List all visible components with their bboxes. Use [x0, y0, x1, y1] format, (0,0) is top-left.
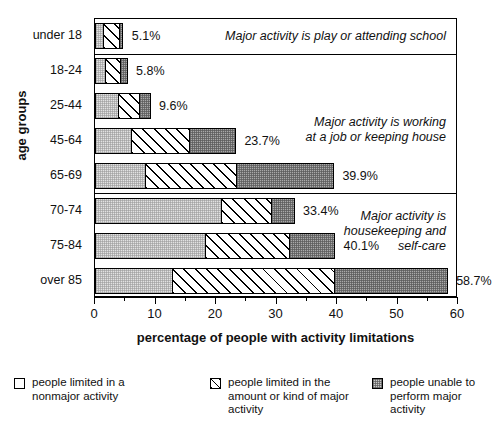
legend-item[interactable]: people unable to perform major activity [372, 376, 494, 417]
y-axis-tick-label: 65-69 [50, 168, 82, 182]
stacked-bar [95, 268, 447, 294]
stacked-bar [95, 233, 334, 259]
legend-swatch-icon [372, 378, 383, 389]
x-axis-tick [336, 297, 337, 304]
x-axis-minor-tick [124, 297, 125, 301]
x-axis-title: percentage of people with activity limit… [94, 330, 457, 345]
bar-value-label: 5.8% [136, 64, 165, 78]
group-divider [95, 193, 456, 194]
stacked-bar [95, 198, 294, 224]
x-axis-tick-label: 60 [450, 306, 464, 321]
legend-label: people limited in the amount or kind of … [228, 376, 349, 417]
chart-annotation: Major activity is working at a job or ke… [306, 115, 446, 145]
x-axis-tick-label: 10 [147, 306, 161, 321]
bar-segment-1 [118, 93, 140, 119]
y-axis-category-labels: under 1818-2425-4445-6465-6970-7475-84ov… [0, 18, 88, 297]
stacked-bar [95, 58, 127, 84]
x-axis-minor-tick [245, 297, 246, 301]
y-axis-tick-label: under 18 [33, 28, 82, 42]
stacked-bar [95, 163, 333, 189]
y-axis-tick-label: 70-74 [50, 203, 82, 217]
x-axis-tick-label: 50 [389, 306, 403, 321]
bar-segment-1 [103, 23, 121, 49]
bar-segment-2 [236, 163, 334, 189]
bar-segment-1 [221, 198, 272, 224]
bar-row: 39.9% [95, 163, 456, 189]
bar-segment-0 [95, 163, 146, 189]
bar-segment-2 [271, 198, 295, 224]
y-axis-tick-label: 25-44 [50, 98, 82, 112]
x-axis-minor-tick [427, 297, 428, 301]
bar-segment-1 [145, 163, 237, 189]
stacked-bar [95, 128, 235, 154]
legend: people limited in a nonmajor activitypeo… [14, 376, 494, 428]
bar-segment-2 [139, 93, 151, 119]
bar-segment-1 [105, 58, 122, 84]
bar-value-label: 39.9% [342, 169, 377, 183]
bar-segment-2 [189, 128, 236, 154]
x-axis-tick-label: 0 [90, 306, 97, 321]
bar-segment-1 [131, 128, 190, 154]
bar-segment-0 [95, 198, 222, 224]
bar-segment-2 [334, 268, 448, 294]
bar-segment-0 [95, 93, 119, 119]
chart-root: age groups under 1818-2425-4445-6465-697… [0, 0, 503, 432]
bar-value-label: 33.4% [303, 204, 338, 218]
bar-segment-2 [289, 233, 335, 259]
legend-item[interactable]: people limited in a nonmajor activity [14, 376, 125, 403]
legend-swatch-icon [14, 378, 25, 389]
bar-segment-0 [95, 268, 173, 294]
stacked-bar [95, 23, 122, 49]
x-axis-tick-label: 20 [208, 306, 222, 321]
bar-segment-0 [95, 233, 206, 259]
group-divider [95, 54, 456, 55]
bar-value-label: 23.7% [244, 134, 279, 148]
bar-segment-2 [119, 23, 123, 49]
bar-segment-0 [95, 128, 132, 154]
x-axis-tick [94, 297, 95, 304]
x-axis-minor-tick [185, 297, 186, 301]
bar-value-label: 5.1% [132, 29, 161, 43]
bar-value-label: 9.6% [159, 99, 188, 113]
legend-swatch-icon [210, 378, 221, 389]
plot-area: 5.1%5.8%9.6%23.7%39.9%33.4%40.1%58.7%Maj… [94, 18, 457, 297]
chart-annotation: Major activity is play or attending scho… [225, 29, 446, 44]
x-axis-tick [457, 297, 458, 304]
bar-value-label: 58.7% [456, 274, 491, 288]
bar-row: 5.8% [95, 58, 456, 84]
legend-label: people unable to perform major activity [390, 376, 494, 417]
x-axis-tick [397, 297, 398, 304]
y-axis-tick-label: 45-64 [50, 133, 82, 147]
x-axis-tick [276, 297, 277, 304]
chart-annotation: Major activity is housekeeping and self-… [344, 209, 446, 254]
x-axis-tick [155, 297, 156, 304]
bar-segment-1 [172, 268, 335, 294]
bar-segment-2 [120, 58, 127, 84]
y-axis-tick-label: over 85 [40, 273, 82, 287]
x-axis-tick-label: 40 [329, 306, 343, 321]
y-axis-tick-label: 75-84 [50, 238, 82, 252]
legend-label: people limited in a nonmajor activity [32, 376, 125, 403]
bar-segment-1 [205, 233, 290, 259]
stacked-bar [95, 93, 149, 119]
x-axis-tick-label: 30 [268, 306, 282, 321]
x-axis-minor-tick [366, 297, 367, 301]
bar-row: 58.7% [95, 268, 456, 294]
y-axis-tick-label: 18-24 [50, 63, 82, 77]
x-axis-tick [215, 297, 216, 304]
x-axis-minor-tick [306, 297, 307, 301]
legend-item[interactable]: people limited in the amount or kind of … [210, 376, 349, 417]
